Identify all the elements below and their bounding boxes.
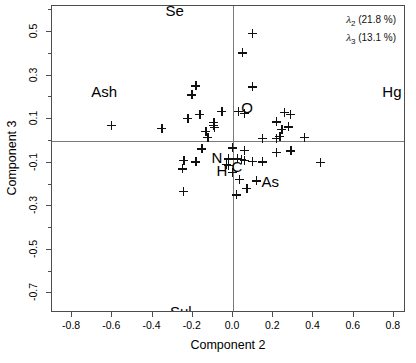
y-axis-tick-label: 0.1 [27, 111, 39, 126]
x-axis-tick [71, 312, 72, 317]
data-point [197, 144, 206, 153]
data-point [209, 118, 218, 127]
data-point [242, 184, 251, 193]
y-axis-minor-tick [48, 271, 51, 272]
horizontal-zero-line [52, 141, 404, 142]
x-axis-tick [312, 312, 313, 317]
annotation-label-hg: Hg [382, 83, 401, 98]
data-point [201, 127, 210, 136]
annotation-label-o: O [241, 100, 253, 115]
legend-variance-label: (13.1 %) [358, 32, 396, 43]
data-point [157, 124, 166, 133]
data-point [195, 110, 204, 119]
annotation-label-as: As [261, 174, 279, 189]
data-point [286, 110, 295, 119]
plot-area: SeAshHgSulONCHAs [52, 6, 404, 311]
y-axis-tick-label: -0.3 [27, 196, 39, 214]
data-point [238, 48, 247, 57]
y-axis-tick [46, 118, 51, 119]
y-axis-tick-label: -0.1 [27, 153, 39, 171]
eigenvalue-legend: λ2 (21.8 %) λ3 (13.1 %) [346, 12, 396, 47]
x-axis-tick-label: -0.8 [62, 319, 80, 331]
y-axis-tick-label: -0.7 [27, 283, 39, 301]
data-point [178, 164, 187, 173]
y-axis-label: Component 3 [5, 120, 19, 195]
x-axis-tick-label: 0.2 [265, 319, 280, 331]
x-axis-tick [353, 312, 354, 317]
data-point [284, 122, 293, 131]
data-point [275, 132, 284, 141]
data-point [248, 157, 257, 166]
x-axis-tick [232, 312, 233, 317]
x-axis-tick-label: -0.4 [143, 319, 161, 331]
annotation-label-ash: Ash [91, 83, 117, 98]
lambda-subscript: 3 [351, 37, 355, 46]
y-axis-tick [46, 162, 51, 163]
x-axis-label: Component 2 [190, 338, 265, 352]
data-point [107, 121, 116, 130]
data-point [272, 148, 281, 157]
plot-frame: SeAshHgSulONCHAs λ2 (21.8 %) λ3 (13.1 %) [51, 5, 405, 312]
y-axis-minor-tick [48, 227, 51, 228]
data-point [179, 156, 188, 165]
annotation-label-se: Se [166, 5, 184, 18]
y-axis-minor-tick [48, 9, 51, 10]
annotation-label-h: H [217, 163, 228, 178]
y-axis-minor-tick [48, 53, 51, 54]
data-point [217, 107, 226, 116]
x-axis-tick [152, 312, 153, 317]
x-axis-tick-label: 0.4 [305, 319, 320, 331]
data-point [179, 187, 188, 196]
y-axis-minor-tick [48, 184, 51, 185]
y-axis-tick [46, 292, 51, 293]
y-axis-tick-label: 0.5 [27, 24, 39, 39]
data-point [258, 157, 267, 166]
lambda-subscript: 2 [351, 19, 355, 28]
data-point [272, 117, 281, 126]
data-point [183, 114, 192, 123]
legend-entry-lambda2: λ2 (21.8 %) [346, 12, 396, 30]
x-axis-tick-label: -0.6 [102, 319, 120, 331]
data-point [286, 146, 295, 155]
y-axis-minor-tick [48, 140, 51, 141]
data-point [248, 29, 257, 38]
data-point [191, 157, 200, 166]
annotation-label-sul: Sul [170, 303, 192, 312]
data-point [191, 81, 200, 90]
x-axis-tick [393, 312, 394, 317]
data-point [235, 175, 244, 184]
data-point [316, 158, 325, 167]
legend-entry-lambda3: λ3 (13.1 %) [346, 30, 396, 48]
y-axis-tick [46, 75, 51, 76]
data-point [209, 121, 218, 130]
y-axis-tick [46, 205, 51, 206]
x-axis-tick [272, 312, 273, 317]
x-axis-tick-label: 0.0 [225, 319, 240, 331]
y-axis-tick-label: 0.3 [27, 67, 39, 82]
x-axis-tick [192, 312, 193, 317]
y-axis-minor-tick [48, 96, 51, 97]
data-point [228, 143, 237, 152]
legend-variance-label: (21.8 %) [358, 14, 396, 25]
y-axis-tick-label: -0.5 [27, 240, 39, 258]
y-axis-tick [46, 31, 51, 32]
x-axis-tick [111, 312, 112, 317]
data-point [280, 108, 289, 117]
data-point [252, 176, 261, 185]
annotation-label-c: C [232, 159, 243, 174]
x-axis-tick-label: 0.6 [345, 319, 360, 331]
pca-loading-plot-figure: SeAshHgSulONCHAs λ2 (21.8 %) λ3 (13.1 %)… [0, 0, 416, 363]
data-point [248, 82, 257, 91]
data-point [187, 90, 196, 99]
data-point [210, 123, 219, 132]
y-axis-tick [46, 249, 51, 250]
data-point [277, 125, 286, 134]
data-point [240, 146, 249, 155]
x-axis-tick-label: -0.2 [183, 319, 201, 331]
x-axis-tick-label: 0.8 [386, 319, 401, 331]
